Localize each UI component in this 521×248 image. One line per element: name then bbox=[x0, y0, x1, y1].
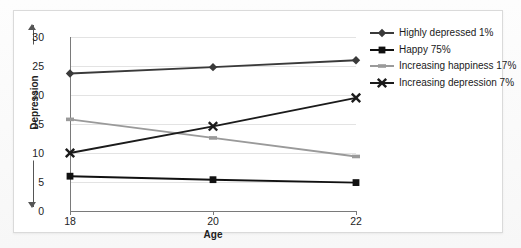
y-tick-label: 5 bbox=[20, 177, 44, 188]
y-tick-label: 15 bbox=[20, 119, 44, 130]
square-marker bbox=[67, 173, 74, 180]
square-legend-icon bbox=[369, 43, 395, 57]
y-tick-label: 20 bbox=[20, 90, 44, 101]
square-marker bbox=[210, 176, 217, 183]
figure-card: Depression 051015202530 182022 Age Highl… bbox=[13, 10, 503, 233]
legend-item[interactable]: Happy 75% bbox=[369, 42, 504, 59]
y-tick-label: 10 bbox=[20, 148, 44, 159]
x-axis-label: Age bbox=[70, 229, 356, 240]
legend-item-label: Increasing depression 7% bbox=[399, 78, 514, 88]
x-legend-icon bbox=[369, 76, 395, 90]
square-marker bbox=[379, 46, 386, 53]
series-happy-75 bbox=[67, 173, 360, 186]
legend-item-label: Highly depressed 1% bbox=[399, 28, 494, 38]
legend-item-label: Increasing happiness 17% bbox=[399, 61, 516, 71]
legend-item-label: Happy 75% bbox=[399, 45, 451, 55]
diamond-marker bbox=[352, 56, 360, 64]
square-marker bbox=[353, 179, 360, 186]
y-tick-label: 30 bbox=[20, 32, 44, 43]
series-highly-depressed-1 bbox=[66, 56, 360, 78]
legend-item[interactable]: Increasing happiness 17% bbox=[369, 58, 504, 75]
diamond-legend-icon bbox=[369, 26, 395, 40]
chart-figure: Depression 051015202530 182022 Age Highl… bbox=[14, 11, 504, 234]
y-tick-label: 0 bbox=[20, 206, 44, 217]
plot-area: 051015202530 182022 Age bbox=[48, 23, 366, 223]
dash-legend-icon bbox=[369, 59, 395, 73]
chart-legend: Highly depressed 1%Happy 75%Increasing h… bbox=[369, 25, 504, 91]
page-root: Depression 051015202530 182022 Age Highl… bbox=[0, 0, 521, 248]
series-lines bbox=[48, 23, 366, 223]
arrow-up-icon bbox=[28, 24, 36, 30]
y-tick-label: 25 bbox=[20, 61, 44, 72]
diamond-marker bbox=[378, 29, 386, 37]
diamond-marker bbox=[66, 69, 74, 77]
legend-item[interactable]: Increasing depression 7% bbox=[369, 75, 504, 92]
legend-item[interactable]: Highly depressed 1% bbox=[369, 25, 504, 42]
diamond-marker bbox=[209, 63, 217, 71]
